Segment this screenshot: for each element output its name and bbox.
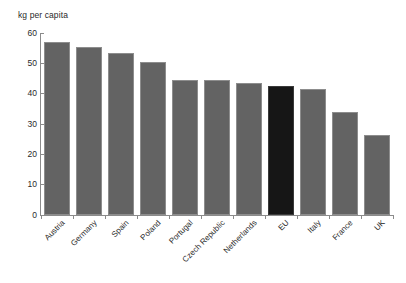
bar [140,62,166,215]
bar-slot [297,33,329,215]
x-axis-labels: AustriaGermanySpainPolandPortugalCzech R… [40,219,392,283]
x-axis-label: EU [277,219,291,233]
plot-area: 0102030405060 [40,33,393,216]
bar [204,80,230,215]
bar [332,112,358,215]
y-axis-unit-label: kg per capita [18,10,68,20]
x-axis-label: Netherlands [222,219,258,255]
bar-slot [169,33,201,215]
bar-slot [137,33,169,215]
bar [172,80,198,215]
x-axis-label: Austria [43,219,66,242]
x-axis-label: Germany [70,219,99,248]
bar-slot [105,33,137,215]
bar-slot [41,33,73,215]
x-axis-label: UK [373,219,387,233]
bar [44,42,70,215]
bar [268,86,294,215]
x-axis-tick-mark [393,215,394,219]
bar [236,83,262,215]
bar-slot [73,33,105,215]
y-axis-tick-label: 10 [28,180,41,189]
y-axis-tick-label: 60 [28,29,41,38]
x-axis-label: Poland [139,219,162,242]
y-axis-tick-label: 40 [28,89,41,98]
bar-slot [233,33,265,215]
y-axis-tick-label: 30 [28,120,41,129]
bar [300,89,326,215]
x-axis-label: Portugal [168,219,195,246]
bar [108,53,134,215]
x-axis-label: Italy [307,219,323,235]
bar [364,135,390,215]
x-axis-label: Spain [111,219,131,239]
bar-slot [361,33,393,215]
bar-chart-figure: kg per capita 0102030405060 AustriaGerma… [0,0,406,283]
y-axis-tick-label: 50 [28,59,41,68]
bars-layer [41,33,393,215]
bar-slot [201,33,233,215]
bar-slot [329,33,361,215]
y-axis-tick-label: 20 [28,150,41,159]
bar [76,47,102,215]
bar-slot [265,33,297,215]
x-axis-label: France [331,219,354,242]
y-axis-tick-label: 0 [32,211,41,220]
